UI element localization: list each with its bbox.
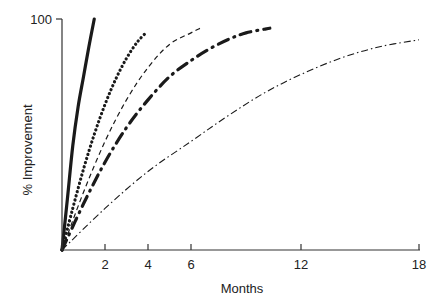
x-tick-label-18: 18 [412,257,426,272]
x-tick-label-6: 6 [187,257,194,272]
series-solid [62,19,94,250]
x-axis-title: Months [221,281,264,296]
y-tick-label-100: 100 [30,12,52,27]
x-ticks [105,244,419,250]
improvement-chart: 100 2 4 6 12 18 Months % Improvement [0,0,443,303]
x-tick-label-12: 12 [294,257,308,272]
y-axis-title: % Improvement [20,104,35,195]
x-tick-label-4: 4 [144,257,151,272]
x-tick-label-2: 2 [101,257,108,272]
series-dash-dot-thin [62,40,419,250]
series-dashed [62,28,200,250]
series-layer [62,19,419,250]
